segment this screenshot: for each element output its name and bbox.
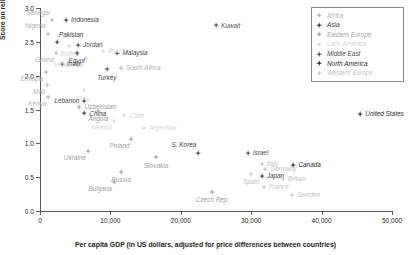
diamond-marker [316,31,322,37]
data-point-label: Israel [253,150,269,156]
diamond-marker [104,66,110,72]
diamond-marker [316,41,322,47]
diamond-marker [248,171,254,177]
x-tick-label: 20,000 [171,217,191,224]
diamond-marker [45,94,51,100]
legend: AfricaAsiaEastern EuropeLatin AmericaMid… [311,7,404,82]
x-tick [251,211,252,215]
legend-item-asia[interactable]: Asia [316,21,399,31]
x-axis-line [40,211,392,212]
data-point-label: Turkey [97,75,116,81]
legend-item-latin-america[interactable]: Latin America [316,40,399,50]
y-tick-label: 0.0 [25,208,34,215]
data-point-label: Malaysia [122,50,147,56]
legend-item-north-america[interactable]: North America [316,59,399,69]
diamond-marker [141,125,147,131]
data-point-label: Slovakia [144,163,168,169]
y-tick [36,42,40,43]
data-point-label: France [269,184,289,190]
x-tick [392,211,393,215]
x-tick [110,211,111,215]
legend-label: Africa [327,13,343,19]
diamond-marker [195,150,201,156]
y-tick [36,143,40,144]
data-point-label: United States [365,111,403,117]
legend-marker-icon [316,31,323,38]
diamond-marker [63,17,69,23]
diamond-marker [280,176,286,182]
legend-marker-icon [316,60,323,67]
legend-label: North America [327,61,368,67]
diamond-marker [81,87,87,93]
x-tick-label: 30,000 [241,217,261,224]
diamond-marker [45,31,51,37]
data-point-label: Uzbekistan [84,104,116,110]
data-point-label: Mali [33,89,45,95]
data-point-label: Spain [243,179,259,185]
data-point-label: Brazil [108,48,124,54]
legend-label: Eastern Europe [327,32,371,38]
data-point-label: Senegal [26,10,49,16]
diamond-marker [316,70,322,76]
legend-marker-icon [316,22,323,29]
x-tick-label: 40,000 [312,217,332,224]
diamond-marker [316,51,322,57]
diamond-marker [357,111,363,117]
data-point-label: Ghana [35,57,54,63]
legend-item-middle-east[interactable]: Middle East [316,49,399,59]
data-point-label: Lebanon [54,98,79,104]
diamond-marker [81,110,87,116]
diamond-marker [100,48,106,54]
data-point-label: Kuwait [221,23,240,29]
data-point-label: Mexico [92,125,112,131]
legend-label: Latin America [327,41,366,47]
diamond-marker [209,189,215,195]
x-axis-label: Per capita GDP (in US dollars, adjusted … [0,241,411,248]
diamond-marker [316,60,322,66]
data-point-label: Nigeria [25,23,45,29]
legend-label: Middle East [327,51,360,57]
x-tick [322,211,323,215]
diamond-marker [75,42,81,48]
legend-item-africa[interactable]: Africa [316,11,399,21]
legend-marker-icon [316,51,323,58]
data-point-label: Angola [88,116,108,122]
data-point-label: Poland [110,143,130,149]
data-point-label: Czech Rep. [196,197,229,203]
legend-item-western-europe[interactable]: Western Europe [316,69,399,79]
data-point-label: Egypt [68,58,84,64]
data-point-label: Bulgaria [88,186,111,192]
x-tick [40,211,41,215]
diamond-marker [66,43,72,49]
diamond-marker [53,50,59,56]
diamond-marker [81,98,87,104]
y-tick-label: 0.5 [25,174,34,181]
legend-marker-icon [316,41,323,48]
y-tick-label: 1.0 [25,140,34,147]
y-axis-line [40,8,41,211]
diamond-marker [118,65,124,71]
data-point-label: Indonesia [71,17,99,23]
diamond-marker [49,17,55,23]
data-point-label: Canada [298,162,320,168]
x-tick [181,211,182,215]
diamond-marker [74,50,80,56]
diamond-marker [261,184,267,190]
scatter-chart: 0.00.51.01.52.02.53.0 010,00020,00030,00… [0,0,411,255]
diamond-marker [118,169,124,175]
y-tick [36,177,40,178]
diamond-marker [54,39,60,45]
data-point-label: Kenya [28,101,46,107]
diamond-marker [316,22,322,28]
legend-label: Asia [327,22,339,28]
x-tick-label: 50,000 [382,217,402,224]
data-point-label: Sweden [297,192,320,198]
x-tick-label: 10,000 [100,217,120,224]
legend-marker-icon [316,12,323,19]
data-point-label: Germany [270,166,296,172]
diamond-marker [213,22,219,28]
legend-label: Western Europe [327,70,373,76]
legend-item-eastern-europe[interactable]: Eastern Europe [316,30,399,40]
data-point-label: Chile [129,113,144,119]
legend-marker-icon [316,70,323,77]
